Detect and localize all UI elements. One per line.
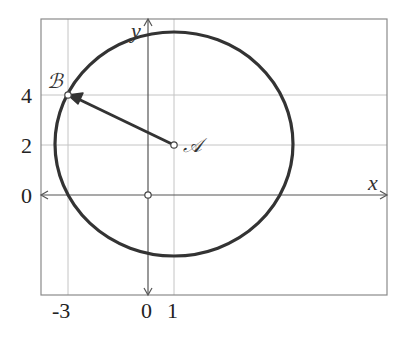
- x-axis-label: x: [367, 170, 378, 195]
- y-tick-0: 0: [21, 183, 32, 208]
- point-A: [171, 142, 177, 148]
- y-tick-2: 2: [21, 133, 32, 158]
- x-tick-neg3: -3: [52, 298, 70, 323]
- label-B: ℬ: [47, 69, 64, 93]
- point-origin: [145, 192, 151, 198]
- vector-AB: [72, 96, 174, 145]
- x-tick-1: 1: [167, 298, 178, 323]
- point-B: [65, 92, 71, 98]
- y-tick-4: 4: [21, 83, 32, 108]
- coordinate-diagram: 𝒜 ℬ x y 4 2 0 -3 0 1: [0, 0, 409, 340]
- y-axis-label: y: [129, 18, 141, 43]
- x-tick-0: 0: [141, 298, 152, 323]
